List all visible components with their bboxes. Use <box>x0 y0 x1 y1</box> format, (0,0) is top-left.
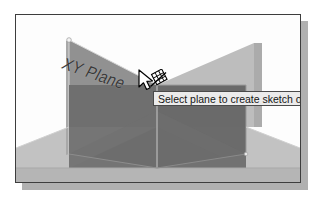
right-vertical-plane-far[interactable] <box>254 43 262 127</box>
solid-vertex-marker-right[interactable] <box>244 152 248 156</box>
plane-vertex-marker[interactable] <box>67 38 72 43</box>
status-tooltip: Select plane to create sketch or <box>153 91 301 106</box>
cad-3d-viewport[interactable]: XY Plane Select plane to create sketch o… <box>15 14 301 183</box>
ground-plane-front-strip[interactable] <box>16 168 300 182</box>
cad-screenshot-figure: XY Plane Select plane to create sketch o… <box>0 0 321 199</box>
